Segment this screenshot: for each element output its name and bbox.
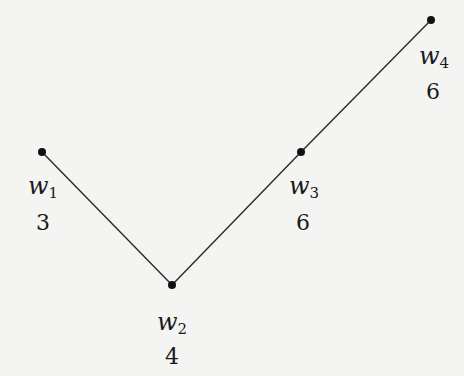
node-label-subscript: 4 xyxy=(440,54,450,72)
node-label-w2: w2 xyxy=(157,310,187,337)
node-weight-w1: 3 xyxy=(36,212,50,234)
edge-w1-w2 xyxy=(42,152,172,285)
node-label-w1: w1 xyxy=(28,174,58,201)
node-weight-w3: 6 xyxy=(296,212,310,234)
node-label-base: w xyxy=(157,308,178,336)
node-label-w3: w3 xyxy=(289,174,319,201)
node-label-w4: w4 xyxy=(419,44,449,71)
node-label-subscript: 3 xyxy=(310,184,320,202)
node-label-base: w xyxy=(28,172,49,200)
node-w1 xyxy=(38,148,46,156)
node-w4 xyxy=(427,16,435,24)
node-label-subscript: 2 xyxy=(178,320,188,338)
node-label-subscript: 1 xyxy=(49,184,59,202)
edge-w2-w3 xyxy=(172,152,301,285)
node-w3 xyxy=(297,148,305,156)
node-label-base: w xyxy=(289,172,310,200)
node-weight-w2: 4 xyxy=(165,346,179,368)
node-w2 xyxy=(168,281,176,289)
node-weight-w4: 6 xyxy=(426,81,440,103)
graph-canvas xyxy=(0,0,464,376)
edge-w3-w4 xyxy=(301,20,431,152)
node-label-base: w xyxy=(419,42,440,70)
